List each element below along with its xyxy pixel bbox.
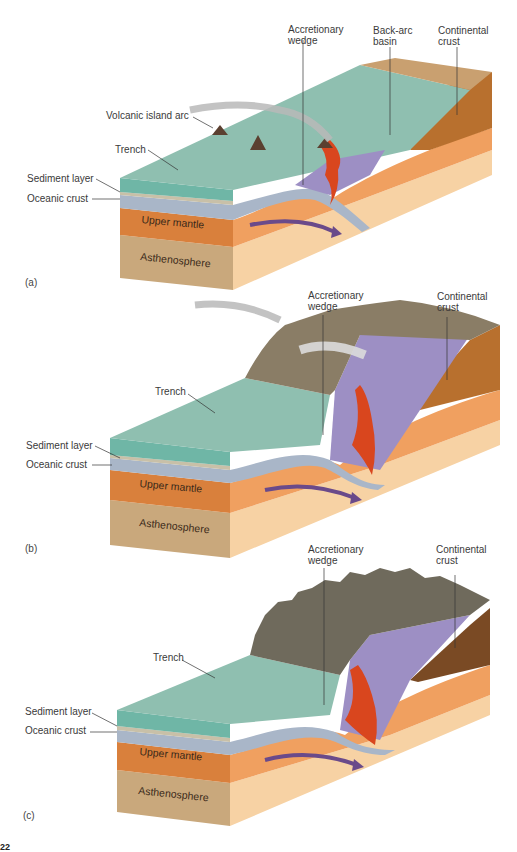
label-sediment-layer-b: Sediment layer: [26, 440, 93, 451]
label-accretionary-wedge-a: Accretionarywedge: [288, 24, 344, 46]
label-accretionary-wedge-c: Accretionarywedge: [308, 544, 364, 566]
label-trench-c: Trench: [153, 652, 184, 663]
block-diagram-b: [0, 280, 517, 560]
label-volcanic-island-arc-a: Volcanic island arc: [106, 110, 189, 121]
label-continental-crust-b: Continentalcrust: [437, 291, 488, 313]
panel-b: Accretionarywedge Continentalcrust Trenc…: [0, 280, 517, 560]
label-continental-crust-c: Continentalcrust: [436, 544, 487, 566]
page-number-fragment: 22: [0, 842, 10, 852]
label-trench-b: Trench: [155, 386, 186, 397]
label-oceanic-crust-c: Oceanic crust: [25, 725, 86, 736]
panel-label-c: (c): [23, 810, 35, 821]
panel-c: Accretionarywedge Continentalcrust Trenc…: [0, 550, 517, 849]
label-trench-a: Trench: [115, 144, 146, 155]
block-diagram-c: [0, 550, 517, 849]
label-accretionary-wedge-b: Accretionarywedge: [308, 290, 364, 312]
label-back-arc-basin-a: Back-arcbasin: [373, 25, 412, 47]
label-sediment-layer-a: Sediment layer: [27, 173, 94, 184]
label-oceanic-crust-a: Oceanic crust: [27, 193, 88, 204]
label-sediment-layer-c: Sediment layer: [25, 706, 92, 717]
label-oceanic-crust-b: Oceanic crust: [26, 459, 87, 470]
panel-a: Accretionarywedge Back-arcbasin Continen…: [0, 0, 517, 290]
label-continental-crust-a: Continentalcrust: [438, 25, 489, 47]
